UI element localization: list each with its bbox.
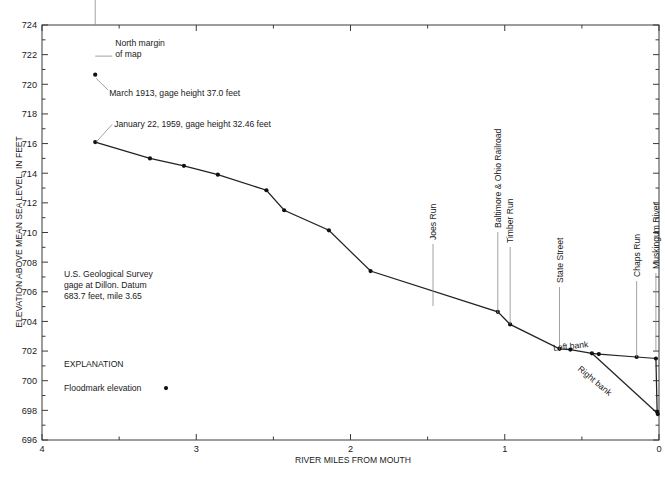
floodmark-point [216, 173, 220, 177]
y-tick-label: 722 [22, 50, 37, 60]
annotation-january-22-1959: January 22, 1959, gage height 32.46 feet [114, 119, 271, 129]
feature-label-joes-run: Joes Run [428, 203, 438, 240]
floodmark-point [264, 188, 268, 192]
flood-profile-chart: 6966987007027047067087107127147167187207… [0, 0, 665, 478]
floodmark-point-1913 [93, 73, 97, 77]
floodmark-point [656, 412, 660, 416]
annotation-north-margin-of-map: of map [115, 49, 141, 59]
chart-root: 6966987007027047067087107127147167187207… [0, 0, 665, 478]
x-tick-label: 4 [39, 444, 44, 454]
y-tick-label: 724 [22, 20, 37, 30]
floodmark-point [654, 356, 658, 360]
explanation-item-marker [164, 386, 168, 390]
y-axis-title: ELEVATION ABOVE MEAN SEA LEVEL, IN FEET [14, 135, 24, 327]
floodmark-point [597, 352, 601, 356]
annotation-usgs-gage-note: 683.7 feet, mile 3.65 [64, 291, 142, 301]
feature-label-muskingum-river: Muskingum River [651, 202, 661, 269]
annotation-march-1913: March 1913, gage height 37.0 feet [109, 88, 241, 98]
floodmark-point [282, 208, 286, 212]
x-tick-label: 2 [348, 444, 353, 454]
y-tick-label: 698 [22, 406, 37, 416]
chart-background [0, 0, 665, 478]
y-tick-label: 696 [22, 435, 37, 445]
y-tick-label: 700 [22, 376, 37, 386]
y-tick-label: 702 [22, 346, 37, 356]
annotation-usgs-gage-note: U.S. Geological Survey [64, 269, 154, 279]
x-tick-label: 1 [502, 444, 507, 454]
feature-label-baltimore-and-ohio-railroad: Baltimore & Ohio Railroad [493, 128, 503, 228]
annotation-north-margin-of-map: North margin [115, 38, 165, 48]
floodmark-point [590, 351, 594, 355]
x-tick-label: 3 [194, 444, 199, 454]
floodmark-point [148, 156, 152, 160]
x-axis-title: RIVER MILES FROM MOUTH [295, 455, 411, 465]
x-tick-label: 0 [656, 444, 661, 454]
floodmark-point [182, 164, 186, 168]
feature-label-timber-run: Timber Run [505, 198, 515, 243]
feature-label-state-street: State Street [555, 237, 565, 283]
floodmark-point [327, 228, 331, 232]
y-tick-label: 720 [22, 80, 37, 90]
annotation-usgs-gage-note: gage at Dillon. Datum [64, 280, 147, 290]
explanation-item-label: Floodmark elevation [64, 383, 142, 393]
floodmark-point [368, 269, 372, 273]
y-tick-label: 718 [22, 109, 37, 119]
feature-label-chaps-run: Chaps Run [632, 234, 642, 277]
explanation-heading: EXPLANATION [64, 359, 124, 369]
